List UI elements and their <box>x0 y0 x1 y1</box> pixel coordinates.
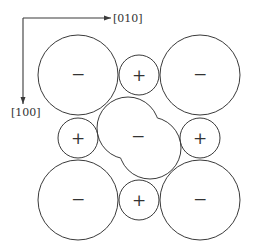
central-anion-sign: − <box>131 126 145 146</box>
central-anion-lobe-lower <box>119 117 181 179</box>
axis-010-label: [010] <box>113 12 143 25</box>
central-anion: − <box>97 97 181 179</box>
cation-right-sign: + <box>193 128 207 148</box>
anion-top-left-sign: − <box>71 64 85 84</box>
axis-100-label: [100] <box>11 106 41 119</box>
cation-bottom-sign: + <box>132 190 146 210</box>
central-anion-lobe-upper <box>97 97 159 159</box>
anion-bottom-right-sign: − <box>193 189 207 209</box>
anion-top-right-sign: − <box>193 64 207 84</box>
cation-left-sign: + <box>71 128 85 148</box>
cation-top-sign: + <box>132 65 146 85</box>
ionic-crystal-diagram: [010] [100] − − − − − + + <box>0 0 253 250</box>
anion-bottom-left-sign: − <box>71 189 85 209</box>
